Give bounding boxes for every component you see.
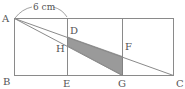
segment-AC <box>15 19 174 76</box>
label-H: H <box>56 43 65 54</box>
label-F: F <box>125 41 132 52</box>
label-C: C <box>176 78 184 89</box>
label-G: G <box>118 78 126 89</box>
dimension-label: 6 cm <box>33 2 56 12</box>
geometry-diagram: 6 cm A B C D E F G H <box>0 0 185 89</box>
segment-AG <box>15 19 123 76</box>
shaded-region <box>68 37 123 76</box>
label-B: B <box>3 76 10 87</box>
label-D: D <box>70 25 78 36</box>
label-A: A <box>1 13 10 24</box>
label-E: E <box>63 78 70 89</box>
